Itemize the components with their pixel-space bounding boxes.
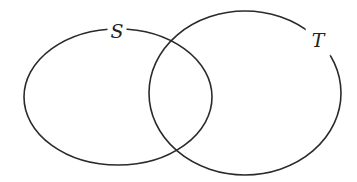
set-t-label: T — [306, 25, 331, 56]
set-s-label: S — [107, 22, 126, 41]
set-s-ellipse — [24, 29, 212, 165]
venn-diagram — [0, 0, 357, 182]
